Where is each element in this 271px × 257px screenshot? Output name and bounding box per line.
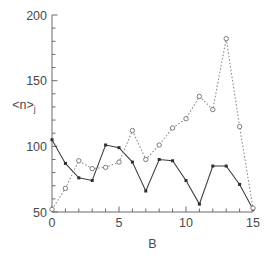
y-tick-label: 100	[26, 140, 47, 154]
y-tick-label: 50	[33, 206, 47, 220]
y-tick-label: 200	[26, 9, 47, 23]
data-point	[224, 36, 228, 40]
data-point	[144, 157, 148, 161]
data-point	[238, 183, 241, 186]
data-point	[77, 176, 80, 179]
axes	[52, 15, 253, 212]
y-tick-label: 150	[26, 74, 47, 88]
x-tick-label: 10	[179, 216, 193, 230]
x-tick-label: 5	[116, 216, 123, 230]
data-point	[50, 207, 54, 211]
data-point	[197, 94, 201, 98]
x-tick-label: 15	[246, 216, 260, 230]
x-tick-label: 0	[49, 216, 56, 230]
series-line-dotted	[52, 39, 253, 210]
plot-area: 05101550100150200 B<n>j	[0, 0, 271, 257]
x-axis-title: B	[148, 237, 156, 251]
data-point	[198, 203, 201, 206]
tick-labels: 05101550100150200	[26, 9, 260, 231]
data-point	[251, 206, 255, 210]
data-point	[225, 165, 228, 168]
data-point	[157, 143, 161, 147]
data-point	[185, 179, 188, 182]
tick-marks	[52, 15, 253, 212]
data-point	[158, 158, 161, 161]
data-point	[211, 107, 215, 111]
data-series	[50, 36, 255, 211]
data-point	[184, 117, 188, 121]
data-point	[90, 166, 94, 170]
data-point	[64, 162, 67, 165]
data-point	[103, 165, 107, 169]
series-line-solid	[52, 140, 253, 210]
data-point	[237, 124, 241, 128]
axis-titles: B<n>j	[12, 98, 156, 252]
chart-figure: 05101550100150200 B<n>j	[0, 0, 271, 257]
data-point	[91, 179, 94, 182]
data-point	[51, 138, 54, 141]
y-axis-title: <n>j	[12, 98, 36, 115]
data-point	[77, 159, 81, 163]
data-point	[63, 186, 67, 190]
data-point	[131, 161, 134, 164]
data-point	[211, 165, 214, 168]
data-point	[144, 189, 147, 192]
data-point	[118, 146, 121, 149]
data-point	[170, 126, 174, 130]
data-point	[130, 128, 134, 132]
data-point	[171, 159, 174, 162]
data-point	[104, 144, 107, 147]
data-point	[117, 160, 121, 164]
